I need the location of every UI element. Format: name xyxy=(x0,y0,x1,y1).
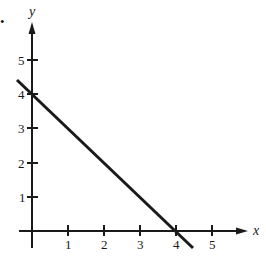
x-tick-labels: 1 2 3 4 5 xyxy=(65,237,216,252)
x-tick-label: 3 xyxy=(137,237,144,252)
x-tick-label: 1 xyxy=(65,237,72,252)
y-tick-label: 4 xyxy=(18,87,25,102)
y-axis-label: y xyxy=(27,4,36,19)
x-tick-label: 2 xyxy=(101,237,108,252)
y-tick-label: 2 xyxy=(18,156,25,171)
x-tick-label: 4 xyxy=(173,237,180,252)
y-tick-label: 5 xyxy=(18,53,25,68)
y-tick-labels: 5 4 3 2 1 xyxy=(18,53,26,205)
y-axis-arrow-icon xyxy=(29,22,36,34)
data-line xyxy=(17,80,193,248)
bullet-marker: • xyxy=(0,14,5,29)
y-tick-label: 3 xyxy=(18,121,25,136)
x-axis-label: x xyxy=(252,223,260,238)
y-tick-label: 1 xyxy=(19,190,26,205)
x-tick-label: 5 xyxy=(209,237,216,252)
chart: • y x 5 4 3 2 1 1 2 3 4 5 xyxy=(0,0,266,263)
x-axis-arrow-icon xyxy=(236,228,248,235)
